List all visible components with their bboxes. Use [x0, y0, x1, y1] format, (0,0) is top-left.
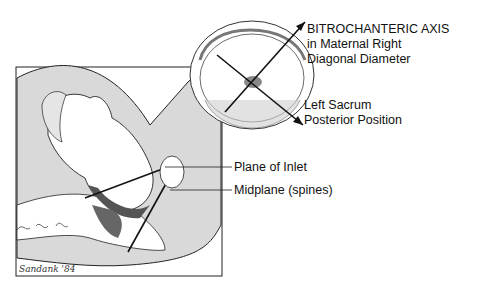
- label-line: Posterior Position: [304, 113, 402, 128]
- position-label: Left Sacrum Posterior Position: [304, 98, 402, 128]
- label-line: in Maternal Right: [307, 37, 449, 52]
- plane-of-inlet-label: Plane of Inlet: [234, 160, 307, 175]
- svg-text:Sandank '84: Sandank '84: [19, 264, 76, 274]
- pelvis-top-view: [190, 21, 314, 129]
- sagittal-view-frame: Sandank '84: [16, 66, 222, 276]
- label-line: Left Sacrum: [304, 98, 402, 113]
- bitrochanteric-axis-label: BITROCHANTERIC AXIS in Maternal Right Di…: [307, 22, 449, 67]
- label-line: Diagonal Diameter: [307, 52, 449, 67]
- label-line: BITROCHANTERIC AXIS: [307, 22, 449, 37]
- midplane-label: Midplane (spines): [234, 183, 333, 198]
